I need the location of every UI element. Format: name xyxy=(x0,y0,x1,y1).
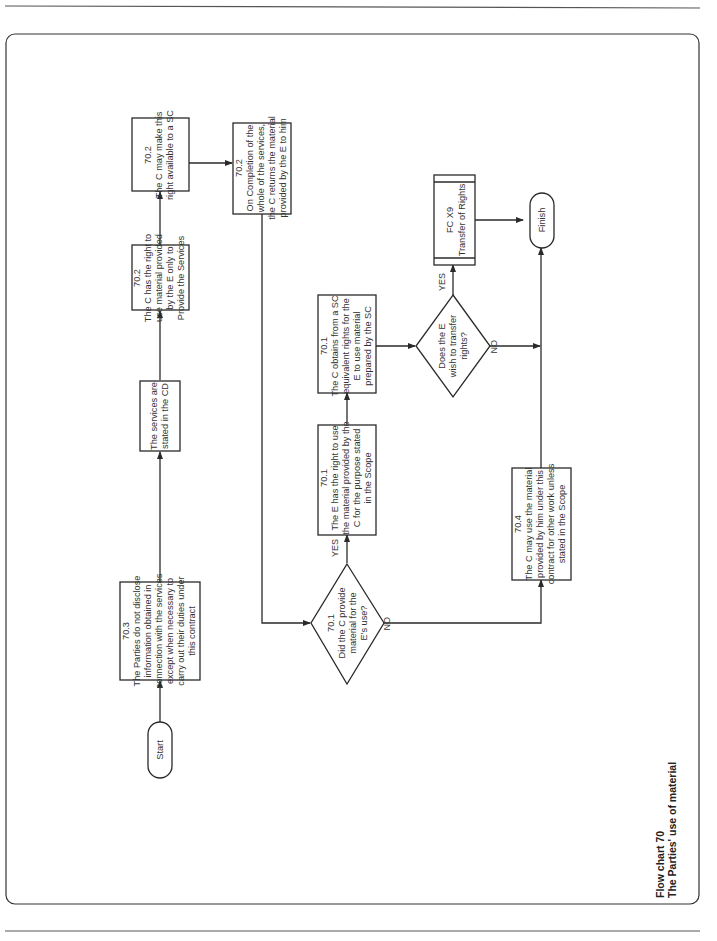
edge-d70-1-no xyxy=(384,580,541,623)
node-text: Transfer of Rights xyxy=(457,183,467,256)
start-node: Start xyxy=(148,722,172,778)
node-70-1a: 70.1 The E has the right to use the mate… xyxy=(318,421,376,535)
node-services: The services are stated in the CD xyxy=(140,381,180,451)
node-fc-x9: FC X9 Transfer of Rights xyxy=(434,175,475,265)
node-text: stated in the CD xyxy=(160,383,170,449)
node-text: use material provided xyxy=(154,234,164,322)
node-ref: 70.1 xyxy=(319,469,329,487)
edge-70-2c-d70-1 xyxy=(262,214,310,623)
node-text: by the E only to xyxy=(165,246,175,309)
node-text: whole of the services, xyxy=(256,124,266,213)
node-text: wish to transfer xyxy=(448,315,458,378)
caption-subtitle: The Parties' use of material xyxy=(666,762,678,898)
start-label: Start xyxy=(155,740,165,760)
node-text: in the Scope xyxy=(363,452,373,503)
node-ref: 70.2 xyxy=(132,269,142,287)
node-ref: 70.1 xyxy=(326,614,336,632)
node-text: The C may make this xyxy=(154,111,164,198)
node-ref: 70.4 xyxy=(513,515,523,533)
edge-label-yes: YES xyxy=(437,273,447,291)
node-70-2c: 70.2 On Completion of the whole of the s… xyxy=(233,116,291,220)
node-text: rights? xyxy=(459,332,469,360)
finish-node: Finish xyxy=(530,193,554,248)
node-ref: 70.3 xyxy=(121,622,131,640)
node-70-2b: 70.2 The C may make this right available… xyxy=(132,110,189,200)
node-text: provided by the E to him xyxy=(278,118,288,217)
node-text: contract for other work unless xyxy=(546,463,556,584)
node-text: The C has the right to xyxy=(143,234,153,322)
node-text: The services are xyxy=(149,382,159,450)
decision-transfer: Does the E wish to transfer rights? xyxy=(416,295,490,397)
edge-label-no: NO xyxy=(489,340,499,354)
node-text: right available to a SC xyxy=(165,110,175,200)
node-text: The C may use the material xyxy=(524,468,534,581)
finish-label: Finish xyxy=(537,208,547,233)
node-text: The E has the right to use xyxy=(330,425,340,530)
node-text: On Completion of the xyxy=(245,125,255,212)
node-text: The C obtains from a SC xyxy=(330,295,340,396)
node-text: Did the C provide xyxy=(337,588,347,659)
flowchart-canvas: Start 70.3 The Parties do not disclose i… xyxy=(0,0,717,941)
edge-label-yes: YES xyxy=(330,539,340,557)
node-text: FC X9 xyxy=(445,207,455,233)
node-text: Does the E xyxy=(437,323,447,368)
decision-70-1: 70.1 Did the C provide material for the … xyxy=(311,564,384,684)
node-text: information obtained in xyxy=(143,585,153,678)
node-ref: 70.1 xyxy=(319,337,329,355)
node-text: prepared by the SC xyxy=(363,306,373,386)
node-text: stated in the Scope xyxy=(557,485,567,564)
node-text: the C returns the material xyxy=(267,116,277,220)
node-text: carry out their duties under xyxy=(176,576,186,685)
node-text: C for the purpose stated xyxy=(352,429,362,528)
node-text: The Parties do not disclose xyxy=(132,576,142,687)
node-70-3: 70.3 The Parties do not disclose informa… xyxy=(120,573,200,688)
node-ref: 70.2 xyxy=(234,159,244,177)
node-text: except when necessary to xyxy=(165,578,175,684)
top-rule xyxy=(5,6,700,8)
node-text: E to use material xyxy=(352,312,362,381)
node-text: Provide the Services xyxy=(176,235,186,320)
node-70-2a: 70.2 The C has the right to use material… xyxy=(132,234,189,322)
edge-label-no: NO xyxy=(382,617,392,631)
node-text: E's use? xyxy=(359,606,369,641)
figure-caption: Flow chart 70 The Parties' use of materi… xyxy=(654,762,678,898)
node-text: material for the xyxy=(348,592,358,653)
node-text: this contract xyxy=(187,606,197,656)
node-70-1b: 70.1 The C obtains from a SC equivalent … xyxy=(318,295,376,397)
node-text: the material provided by the xyxy=(341,421,351,534)
node-text: provided by him under this xyxy=(535,470,545,578)
node-ref: 70.2 xyxy=(143,146,153,164)
node-text: connection with the services xyxy=(154,573,164,688)
node-70-4: 70.4 The C may use the material provided… xyxy=(512,463,571,584)
node-text: equivalent rights for the xyxy=(341,298,351,394)
caption-title: Flow chart 70 xyxy=(654,831,666,898)
